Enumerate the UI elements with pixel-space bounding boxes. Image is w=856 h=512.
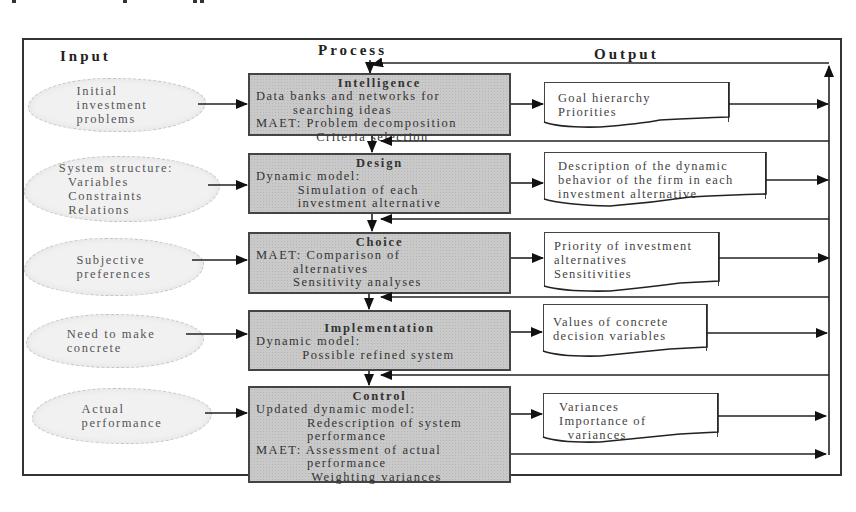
doc-wave [544, 232, 719, 291]
connector-lines [0, 0, 856, 512]
doc-wave [543, 304, 707, 356]
doc-wave [544, 82, 729, 127]
doc-wave [544, 152, 766, 206]
doc-wave [543, 393, 718, 442]
